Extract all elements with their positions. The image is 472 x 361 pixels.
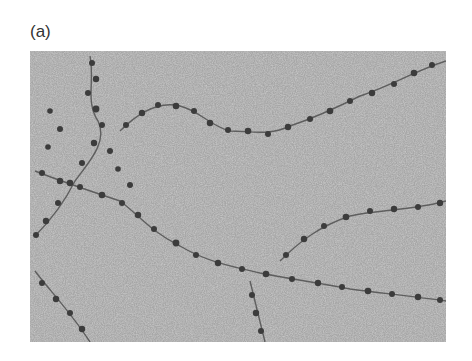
- panel-label: (a): [30, 22, 51, 42]
- electron-micrograph: [30, 51, 446, 342]
- micrograph-image: [30, 51, 446, 342]
